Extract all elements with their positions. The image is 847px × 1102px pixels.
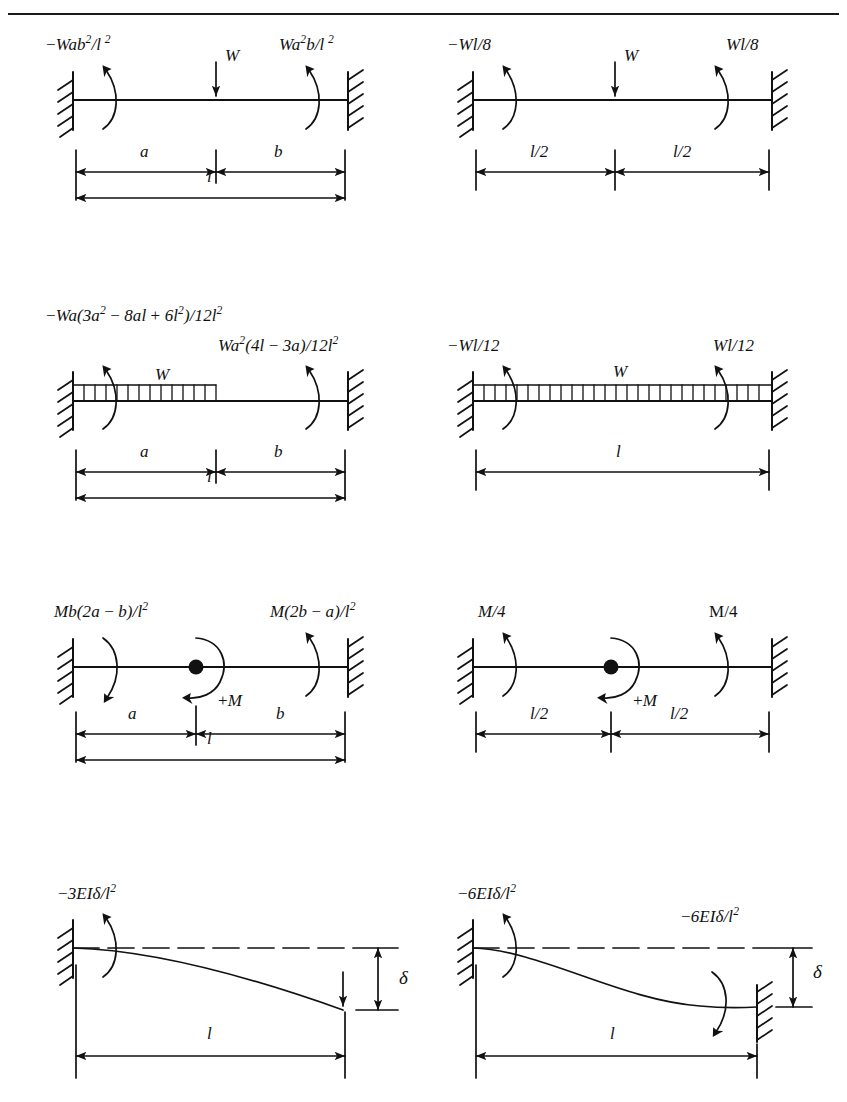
- fig-3-2-right-moment: M/4: [709, 603, 738, 620]
- fig-3-2-left-moment: M/4: [478, 603, 506, 620]
- fig-1-1-load-label: W: [225, 47, 239, 64]
- fig-3-1-moment-label: +M: [218, 692, 242, 709]
- fig-4-2-right-moment: −6EIδ/l2: [681, 908, 739, 925]
- fig-1-2-dim-l-half-right: l/2: [673, 143, 691, 160]
- fig-1-2-dim-l-half-left: l/2: [530, 143, 548, 160]
- fig-2-1-left-moment: −Wa(3a2 − 8al + 6l2)/12l2: [46, 307, 222, 324]
- fig-2-2-dim-l: l: [616, 443, 621, 460]
- fig-2-2-right-moment: Wl/12: [713, 337, 754, 354]
- fig-1-1-dim-l: l: [207, 168, 212, 185]
- fig-1-2-left-moment: −Wl/8: [447, 36, 491, 53]
- fig-2-2-left-moment: −Wl/12: [447, 337, 500, 354]
- beam-diagrams-artwork: [0, 0, 847, 1102]
- fig-4-1-left-moment: −3EIδ/l2: [58, 885, 116, 902]
- fig-2-1-load-label: W: [155, 366, 169, 383]
- fig-4-2-left-moment: −6EIδ/l2: [458, 885, 516, 902]
- fig-1-1-dim-b: b: [274, 143, 283, 160]
- fig-3-2-moment-label: +M: [633, 692, 657, 709]
- figure-page: −Wab2/l 2 Wa2b/l 2 W a b l −Wl/8 Wl/8 W …: [0, 0, 847, 1102]
- fig-3-2-dim-l-half-right: l/2: [670, 705, 688, 722]
- fig-4-2-delta-label: δ: [813, 962, 822, 981]
- fig-2-1-dim-b: b: [274, 443, 283, 460]
- fig-2-1-right-moment: Wa2(4l − 3a)/12l2: [218, 337, 338, 354]
- fig-1-1-left-moment: −Wab2/l 2: [46, 36, 111, 53]
- fig-1-1-right-moment: Wa2b/l 2: [279, 36, 334, 53]
- fig-4-1-dim-l: l: [207, 1025, 212, 1042]
- fig-3-1-right-moment: M(2b − a)/l2: [270, 603, 356, 620]
- fig-1-2-right-moment: Wl/8: [726, 36, 759, 53]
- fig-2-1-dim-l: l: [207, 468, 212, 485]
- fig-3-2-dim-l-half-left: l/2: [530, 705, 548, 722]
- fig-1-2-load-label: W: [624, 47, 638, 64]
- fig-2-1-dim-a: a: [140, 443, 149, 460]
- fig-4-1-delta-label: δ: [399, 968, 408, 987]
- fig-2-2-load-label: W: [613, 363, 627, 380]
- fig-3-1-dim-a: a: [128, 705, 137, 722]
- fig-3-1-dim-l: l: [207, 730, 212, 747]
- fig-4-2-dim-l: l: [610, 1025, 615, 1042]
- fig-3-1-dim-b: b: [276, 705, 285, 722]
- fig-3-1-left-moment: Mb(2a − b)/l2: [54, 603, 148, 620]
- fig-1-1-dim-a: a: [140, 143, 149, 160]
